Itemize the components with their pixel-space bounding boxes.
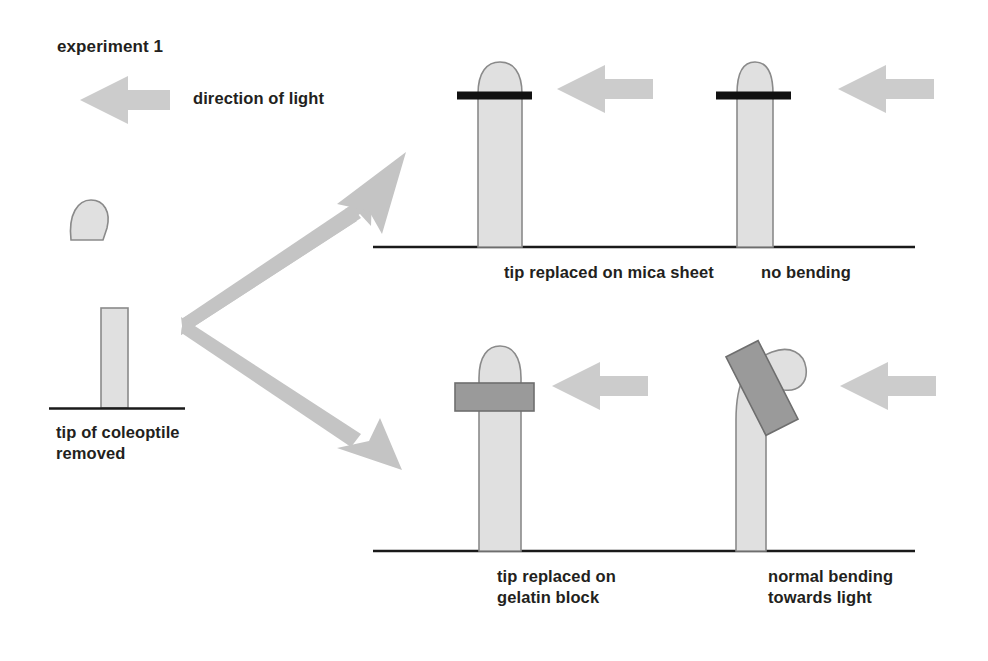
- panel-mica-coleoptile: [478, 62, 522, 247]
- light-arrow-panel-2: [838, 65, 934, 113]
- caption-normal-bending-towards-light: normal bending towards light: [768, 566, 893, 608]
- decapitated-coleoptile-stump: [101, 308, 128, 408]
- page-title: experiment 1: [57, 36, 163, 57]
- direction-of-light-arrow: [80, 76, 170, 124]
- figure-canvas: experiment 1 direction of light tip of c…: [0, 0, 988, 661]
- light-arrow-panel-4: [840, 362, 936, 410]
- branch-arrow-upper: [181, 152, 406, 335]
- light-arrow-panel-1: [557, 65, 653, 113]
- caption-tip-of-coleoptile-removed: tip of coleoptile removed: [56, 422, 180, 464]
- mica-sheet-barrier-panel-2: [716, 92, 791, 100]
- severed-coleoptile-tip: [70, 200, 108, 240]
- panel-gelatin-coleoptile: [479, 346, 521, 551]
- light-arrow-panel-3: [552, 362, 648, 410]
- caption-tip-replaced-on-gelatin-block: tip replaced on gelatin block: [497, 566, 616, 608]
- caption-tip-replaced-on-mica-sheet: tip replaced on mica sheet: [504, 262, 714, 283]
- direction-of-light-label: direction of light: [193, 88, 324, 109]
- mica-sheet-barrier-panel-1: [457, 92, 532, 100]
- gelatin-block-barrier-panel-3: [455, 383, 534, 411]
- panel-no-bending-coleoptile: [737, 62, 773, 247]
- experiment-diagram-svg: [0, 0, 988, 661]
- branch-arrow-lower: [181, 317, 402, 470]
- caption-no-bending: no bending: [761, 262, 851, 283]
